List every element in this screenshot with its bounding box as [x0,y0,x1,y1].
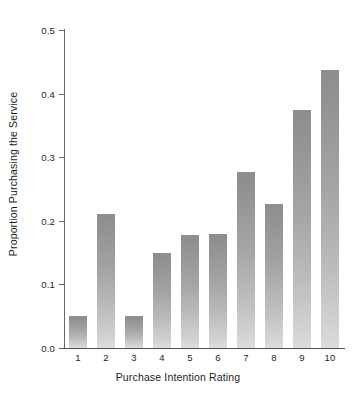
x-axis-tick-label: 6 [204,352,232,363]
bar [69,316,87,348]
y-axis-tick-label: 0.2 [41,215,55,226]
x-axis-title: Purchase Intention Rating [0,371,356,383]
y-axis-tick-mark [59,94,64,95]
x-axis-tick-label: 9 [288,352,316,363]
x-axis-tick-label: 7 [232,352,260,363]
bar [237,172,255,348]
x-axis-tick-label: 2 [92,352,120,363]
x-axis-tick-label: 4 [148,352,176,363]
bar [181,235,199,348]
bar [153,253,171,348]
y-axis-tick-label: 0.0 [41,343,55,354]
x-axis-tick-label: 8 [260,352,288,363]
bar [321,70,339,348]
y-axis-tick-mark [59,30,64,31]
y-axis-title: Proportion Purchasing the Service [4,0,22,348]
y-axis-tick-label: 0.4 [41,88,55,99]
y-axis-tick-mark [59,157,64,158]
plot-area: 0.00.10.20.30.40.5 [64,30,344,348]
x-axis-tick-label: 3 [120,352,148,363]
y-axis-tick-mark [59,284,64,285]
y-axis-tick-mark [59,348,64,349]
y-axis-tick-mark [59,221,64,222]
bar [97,214,115,348]
y-axis-tick-label: 0.1 [41,279,55,290]
bar [125,316,143,348]
y-axis-title-text: Proportion Purchasing the Service [7,92,19,256]
x-axis-tick-labels: 12345678910 [64,352,345,370]
x-axis-tick-label: 1 [64,352,92,363]
bar [265,204,283,348]
bar-chart-figure: Proportion Purchasing the Service 0.00.1… [0,0,356,399]
bar [209,234,227,348]
bars-layer [64,30,344,348]
x-axis-line [64,348,345,349]
bar [293,110,311,349]
x-axis-tick-label: 10 [316,352,344,363]
y-axis-tick-label: 0.5 [41,25,55,36]
y-axis-tick-label: 0.3 [41,152,55,163]
x-axis-tick-label: 5 [176,352,204,363]
